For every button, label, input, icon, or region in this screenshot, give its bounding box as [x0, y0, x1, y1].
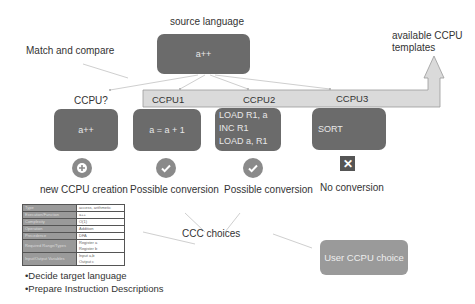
row-key: Precedence	[23, 233, 77, 240]
status-label-1: Possible conversion	[130, 184, 219, 195]
source-language-title: source language	[170, 16, 244, 27]
templates-label-line1: available CCPU	[392, 30, 463, 42]
row-key: Operation	[23, 226, 77, 233]
templates-label: available CCPU templates	[392, 30, 463, 54]
status-label-0: new CCPU creation	[40, 184, 128, 195]
candidate-box-1[interactable]: a = a + 1	[133, 109, 201, 151]
table-row: Execution/Functiona++	[23, 212, 125, 219]
table-row: PrecedenceDFA	[23, 233, 125, 240]
table-row: ComplexityO(1)	[23, 219, 125, 226]
table-row: Required Range/TypesRegister a Register …	[23, 240, 125, 253]
row-value: access, arithmetic	[77, 205, 125, 212]
row-key: Input/Output Variables	[23, 253, 77, 266]
candidate-code: SORT	[318, 124, 343, 134]
instruction-description-table: Typeaccess, arithmetic Execution/Functio…	[22, 204, 125, 266]
candidate-code-line: INC R1	[219, 122, 281, 135]
bullet-item: •Decide target language	[25, 269, 164, 282]
candidate-code-line: LOAD R1, a	[219, 109, 281, 122]
row-value: O(1)	[77, 219, 125, 226]
candidate-box-0[interactable]: a++	[54, 109, 118, 151]
user-ccpu-choice-button[interactable]: User CCPU choice	[320, 240, 408, 275]
table-row: Input/Output VariablesInput a,b Output c	[23, 253, 125, 266]
ccc-choices-label: CCC choices	[182, 228, 240, 239]
source-code: a++	[196, 49, 212, 59]
candidate-box-3[interactable]: SORT	[312, 108, 386, 150]
candidate-header-2: CCPU2	[243, 94, 275, 105]
check-circle-icon	[243, 158, 263, 178]
row-value: Register a Register b	[77, 240, 125, 253]
row-key: Type	[23, 205, 77, 212]
row-key: Complexity	[23, 219, 77, 226]
bullet-list: •Decide target language •Prepare Instruc…	[25, 269, 164, 295]
row-key: Required Range/Types	[23, 240, 77, 253]
bullet-item: •Prepare Instruction Descriptions	[25, 282, 164, 295]
row-key: Execution/Function	[23, 212, 77, 219]
status-label-3: No conversion	[320, 182, 384, 193]
status-label-2: Possible conversion	[224, 184, 313, 195]
table-row: Typeaccess, arithmetic	[23, 205, 125, 212]
row-value: Addition	[77, 226, 125, 233]
candidate-code: a = a + 1	[149, 125, 185, 135]
candidate-header-0: CCPU?	[74, 95, 108, 106]
table-row: OperationAddition	[23, 226, 125, 233]
x-box-icon: ✕	[340, 156, 355, 171]
row-value: a++	[77, 212, 125, 219]
candidate-box-2[interactable]: LOAD R1, a INC R1 LOAD a, R1	[215, 108, 281, 151]
source-code-box: a++	[157, 34, 250, 74]
candidate-code: a++	[78, 125, 94, 135]
plus-circle-icon	[72, 158, 92, 178]
row-value: Input a,b Output c	[77, 253, 125, 266]
candidate-code-line: LOAD a, R1	[219, 135, 281, 148]
templates-label-line2: templates	[392, 42, 463, 54]
check-circle-icon	[156, 158, 176, 178]
row-value: DFA	[77, 233, 125, 240]
candidate-header-1: CCPU1	[152, 94, 184, 105]
candidate-header-3: CCPU3	[336, 93, 368, 104]
match-and-compare-label: Match and compare	[26, 45, 114, 56]
